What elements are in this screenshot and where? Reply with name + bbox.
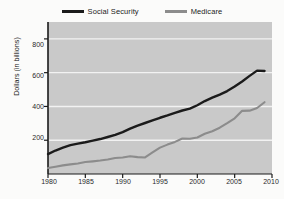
legend-swatch-medicare <box>165 10 187 13</box>
legend-label-medicare: Medicare <box>191 7 223 16</box>
x-tick-label-1985: 1985 <box>71 178 101 185</box>
plot-area <box>0 0 284 199</box>
x-tick-label-1980: 1980 <box>34 178 64 185</box>
y-tick-label-600: 600 <box>18 72 44 79</box>
x-tick-label-2005: 2005 <box>219 178 249 185</box>
legend-entry-social-security: Social Security <box>62 7 139 16</box>
legend-label-social-security: Social Security <box>88 7 139 16</box>
x-tick-label-1990: 1990 <box>108 178 138 185</box>
legend-swatch-social-security <box>62 10 84 13</box>
y-tick-label-200: 200 <box>18 134 44 141</box>
plot-background <box>48 22 272 174</box>
chart-figure: Social Security Medicare Dollars (in bil… <box>0 0 284 199</box>
x-tick-label-2010: 2010 <box>256 178 284 185</box>
x-tick-label-1995: 1995 <box>145 178 175 185</box>
x-tick-label-2000: 2000 <box>182 178 212 185</box>
y-tick-label-800: 800 <box>18 41 44 48</box>
chart-legend: Social Security Medicare <box>0 3 284 19</box>
y-tick-label-400: 400 <box>18 103 44 110</box>
legend-entry-medicare: Medicare <box>165 7 223 16</box>
